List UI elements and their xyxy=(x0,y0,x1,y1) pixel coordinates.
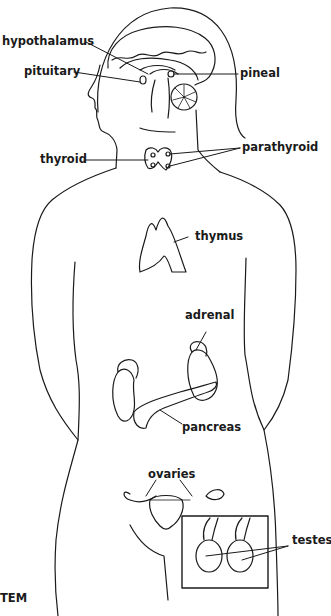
label-testes: testes xyxy=(292,535,331,547)
label-adrenal: adrenal xyxy=(185,310,234,322)
label-pineal: pineal xyxy=(240,68,280,80)
label-thyroid: thyroid xyxy=(40,154,87,166)
label-hypothalamus: hypothalamus xyxy=(2,36,94,48)
label-ovaries: ovaries xyxy=(148,469,195,481)
body-outline-illustration xyxy=(0,0,331,616)
label-parathyroid: parathyroid xyxy=(242,142,318,154)
caption-fragment: TEM xyxy=(0,593,27,605)
endocrine-diagram: hypothalamus pituitary pineal thyroid pa… xyxy=(0,0,331,616)
label-pituitary: pituitary xyxy=(24,66,80,78)
label-thymus: thymus xyxy=(195,231,243,243)
label-pancreas: pancreas xyxy=(182,422,241,434)
